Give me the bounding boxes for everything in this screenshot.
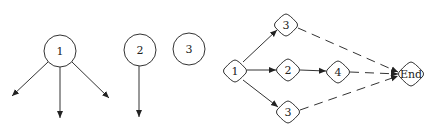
circle-node-2: 2 [124,34,156,66]
left-diagram: 1 2 3 [12,33,205,118]
diamond-node-2-label: 2 [285,64,292,77]
edge-1-to-3-top [243,30,277,62]
diamond-node-3-top: 3 [275,14,298,36]
circle-node-2-label: 2 [137,44,144,57]
diamond-node-4: 4 [327,61,350,83]
diamond-node-end-label: End [400,68,422,81]
diamond-node-3-top-label: 3 [283,19,290,32]
circle-node-3-label: 3 [186,43,193,56]
diamond-node-1: 1 [224,60,247,82]
diamond-node-3-bottom-label: 3 [285,106,292,119]
circle-node-1: 1 [44,35,76,67]
arrow-c1-left [12,62,48,96]
diamond-node-4-label: 4 [335,66,342,79]
diamond-node-3-bottom: 3 [277,101,300,123]
circle-node-1-label: 1 [57,45,64,58]
diamond-node-1-label: 1 [232,65,239,78]
edge-4-to-end [350,72,398,74]
edge-2-to-4 [300,70,326,71]
edge-3-top-to-end [298,28,398,72]
edge-3-bottom-to-end [300,76,398,110]
diamond-node-end: End [399,62,424,86]
diamond-node-2: 2 [277,59,300,81]
diagram-canvas: 1 2 3 1 3 2 [0,0,430,133]
edge-1-to-3-bottom [243,80,278,107]
circle-node-3: 3 [173,33,205,65]
arrow-c1-right [72,62,109,98]
right-diagram: 1 3 2 4 3 End [224,14,424,123]
